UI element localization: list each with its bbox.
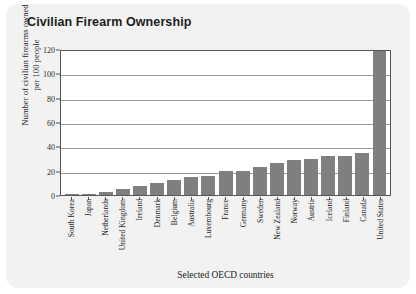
bar (150, 183, 164, 195)
x-axis-label-slot: New Zealand (270, 197, 284, 259)
x-axis-tick-label: Australia (187, 199, 196, 227)
bar (236, 171, 250, 195)
x-axis-label-slot: Australia (184, 197, 198, 259)
x-axis-tick-label: Sweden (255, 199, 264, 223)
bar (338, 156, 352, 195)
x-axis-label-slot: Finland (339, 197, 353, 259)
bar (201, 176, 215, 195)
x-axis-label-slot: Ireland (132, 197, 146, 259)
x-axis-tick-label: Japan (83, 199, 92, 216)
x-axis-tick-label: Germany (238, 199, 247, 227)
bar (99, 192, 113, 195)
x-axis-label-slot: Sweden (253, 197, 267, 259)
x-axis-tick-label: Belgium (169, 199, 178, 225)
x-axis-tick-label: Norway (290, 199, 299, 223)
bar (321, 156, 335, 195)
x-axis-label-slot: France (218, 197, 232, 259)
y-axis-title-line-1: Number of civilian firearms owned (20, 4, 31, 125)
x-axis-tick-label: New Zealand (273, 199, 282, 240)
x-axis-tick-label: Iceland (324, 199, 333, 221)
bar (167, 180, 181, 195)
x-axis-tick-label: Austria (307, 199, 316, 221)
y-axis-tick-label: 40 (47, 143, 55, 152)
x-axis-labels: South KoreaJapanNetherlandsUnited Kingdo… (60, 197, 391, 259)
y-axis-tick-label: 20 (47, 167, 55, 176)
bar (82, 194, 96, 195)
y-axis-tick-label: 100 (43, 70, 55, 79)
bar (287, 160, 301, 195)
x-axis-label-slot: Austria (304, 197, 318, 259)
x-axis-tick-label: South Korea (66, 199, 75, 237)
x-axis-tick-label: Ireland (135, 199, 144, 221)
x-axis-label-slot: United States (373, 197, 387, 259)
bar (65, 194, 79, 195)
x-axis-label-slot: Canada (356, 197, 370, 259)
bar (270, 163, 284, 195)
x-axis-tick-label: Canada (359, 199, 368, 222)
bar (304, 159, 318, 196)
page-title: Civilian Firearm Ownership (27, 15, 191, 29)
bar (133, 186, 147, 195)
x-axis-label-slot: United Kingdom (115, 197, 129, 259)
plot-area (60, 50, 391, 196)
x-axis-label-slot: Japan (81, 197, 95, 259)
x-axis-tick-label: United States (376, 199, 385, 240)
x-axis-label-slot: Denmark (150, 197, 164, 259)
y-axis-ticks: 020406080100120 (36, 50, 60, 196)
y-axis-tick-label: 120 (43, 46, 55, 55)
bar (219, 171, 233, 195)
bar (355, 153, 369, 195)
bar (184, 177, 198, 195)
y-axis-tick-label: 0 (51, 192, 55, 201)
x-axis-title: Selected OECD countries (60, 270, 391, 280)
bar (253, 167, 267, 195)
x-axis-tick-label: Denmark (152, 199, 161, 227)
x-axis-tick-label: France (221, 199, 230, 220)
bar-series (61, 51, 390, 195)
x-axis-label-slot: Belgium (167, 197, 181, 259)
y-axis-tick-label: 80 (47, 94, 55, 103)
y-axis-tick-label: 60 (47, 119, 55, 128)
x-axis-label-slot: Netherlands (98, 197, 112, 259)
x-axis-label-slot: Luxembourg (201, 197, 215, 259)
x-axis-label-slot: Iceland (322, 197, 336, 259)
x-axis-label-slot: Germany (236, 197, 250, 259)
x-axis-label-slot: Norway (287, 197, 301, 259)
bar (116, 189, 130, 195)
chart-card: Civilian Firearm Ownership Number of civ… (6, 4, 410, 288)
bar (373, 50, 387, 195)
x-axis-tick-label: United Kingdom (118, 199, 127, 250)
x-axis-tick-label: Finland (341, 199, 350, 222)
x-axis-tick-label: Luxembourg (204, 199, 213, 238)
x-axis-label-slot: South Korea (64, 197, 78, 259)
x-axis-tick-label: Netherlands (101, 199, 110, 236)
